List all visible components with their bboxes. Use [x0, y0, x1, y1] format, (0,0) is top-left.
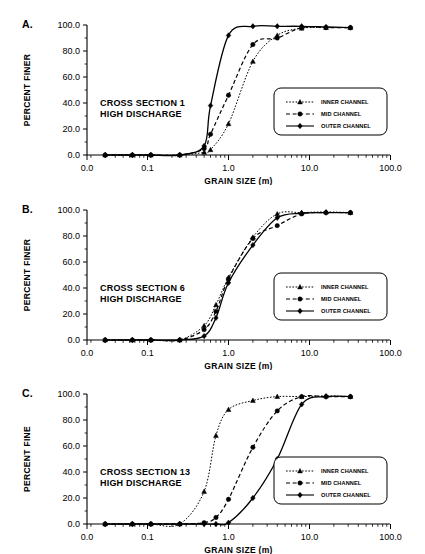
x-axis-title: GRAIN SIZE (m): [204, 176, 272, 185]
x-tick-label: 0.1: [141, 163, 154, 173]
chart-canvas: 0.020.040.060.080.0100.00.00.11.010.0100…: [0, 369, 425, 554]
legend-label: MID CHANNEL: [321, 296, 362, 302]
data-point-inner-channel: [214, 433, 219, 437]
data-point-mid-channel: [275, 409, 279, 413]
legend-circle-icon: [298, 112, 302, 116]
legend-label: OUTER CHANNEL: [321, 492, 371, 498]
x-tick-label: 100.0: [379, 348, 402, 358]
data-point-mid-channel: [275, 36, 279, 40]
chart-canvas: 0.020.040.060.080.0100.00.00.11.010.0100…: [0, 185, 425, 370]
y-tick-label: 0.0: [67, 150, 80, 160]
legend-label: INNER CHANNEL: [321, 99, 369, 105]
data-point-inner-channel: [214, 302, 219, 306]
y-tick-label: 100.0: [57, 20, 80, 30]
data-point-mid-channel: [251, 236, 255, 240]
x-tick-label: 10.0: [301, 532, 319, 542]
data-point-outer-channel: [251, 24, 256, 29]
x-tick-label: 10.0: [301, 348, 319, 358]
x-tick-label: 0.0: [81, 348, 94, 358]
data-point-mid-channel: [226, 497, 230, 501]
data-point-inner-channel: [250, 59, 255, 63]
x-tick-label: 0.1: [141, 348, 154, 358]
y-tick-label: 20.0: [62, 309, 80, 319]
data-point-mid-channel: [214, 309, 218, 313]
legend-circle-icon: [298, 297, 302, 301]
y-axis-title: PERCENT FINE: [22, 426, 32, 492]
panel-a: A. 0.020.040.060.080.0100.00.00.11.010.0…: [0, 0, 425, 185]
y-tick-label: 80.0: [62, 415, 80, 425]
y-tick-label: 100.0: [57, 205, 80, 215]
chart-title-annotation: CROSS SECTION 13: [100, 467, 190, 477]
data-point-outer-channel: [275, 24, 280, 29]
legend-label: OUTER CHANNEL: [321, 123, 371, 129]
data-point-outer-channel: [208, 103, 213, 108]
grain-size-distribution-figure: A. 0.020.040.060.080.0100.00.00.11.010.0…: [0, 0, 425, 554]
panel-c: C. 0.020.040.060.080.0100.00.00.11.010.0…: [0, 369, 425, 554]
legend-label: OUTER CHANNEL: [321, 308, 371, 314]
x-tick-label: 0.1: [141, 532, 154, 542]
legend-circle-icon: [298, 481, 302, 485]
legend-label: INNER CHANNEL: [321, 284, 369, 290]
y-tick-label: 40.0: [62, 467, 80, 477]
y-tick-label: 20.0: [62, 493, 80, 503]
chart-subtitle-annotation: HIGH DISCHARGE: [100, 478, 182, 488]
y-tick-label: 80.0: [62, 231, 80, 241]
x-tick-label: 1.0: [222, 348, 235, 358]
x-tick-label: 0.0: [81, 163, 94, 173]
y-tick-label: 60.0: [62, 72, 80, 82]
legend-label: MID CHANNEL: [321, 111, 362, 117]
y-tick-label: 0.0: [67, 519, 80, 529]
data-point-mid-channel: [214, 515, 218, 519]
chart-subtitle-annotation: HIGH DISCHARGE: [100, 109, 182, 119]
data-point-inner-channel: [226, 121, 231, 125]
data-point-mid-channel: [299, 394, 303, 398]
data-point-outer-channel: [324, 210, 329, 215]
x-axis-title: GRAIN SIZE (m): [204, 545, 272, 554]
data-point-mid-channel: [226, 93, 230, 97]
data-point-inner-channel: [202, 489, 207, 493]
x-tick-label: 10.0: [301, 163, 319, 173]
data-point-inner-channel: [275, 394, 280, 398]
x-tick-label: 1.0: [222, 532, 235, 542]
panel-b: B. 0.020.040.060.080.0100.00.00.11.010.0…: [0, 185, 425, 370]
y-tick-label: 40.0: [62, 98, 80, 108]
y-tick-label: 40.0: [62, 283, 80, 293]
data-point-mid-channel: [251, 445, 255, 449]
legend-label: INNER CHANNEL: [321, 468, 369, 474]
y-tick-label: 20.0: [62, 124, 80, 134]
chart-title-annotation: CROSS SECTION 6: [100, 283, 185, 293]
data-point-outer-channel: [324, 394, 329, 399]
y-tick-label: 0.0: [67, 335, 80, 345]
y-tick-label: 60.0: [62, 441, 80, 451]
x-tick-label: 100.0: [379, 163, 402, 173]
data-point-outer-channel: [214, 521, 219, 526]
y-tick-label: 100.0: [57, 389, 80, 399]
y-axis-title: PERCENT FINER: [22, 54, 32, 126]
data-point-mid-channel: [202, 327, 206, 331]
y-tick-label: 60.0: [62, 257, 80, 267]
data-point-mid-channel: [208, 132, 212, 136]
y-axis-title: PERCENT FINER: [22, 239, 32, 311]
chart-title-annotation: CROSS SECTION 1: [100, 98, 185, 108]
x-tick-label: 0.0: [81, 532, 94, 542]
x-tick-label: 100.0: [379, 532, 402, 542]
data-point-mid-channel: [251, 42, 255, 46]
data-point-mid-channel: [275, 223, 279, 227]
y-tick-label: 80.0: [62, 46, 80, 56]
x-tick-label: 1.0: [222, 163, 235, 173]
chart-subtitle-annotation: HIGH DISCHARGE: [100, 294, 182, 304]
data-point-outer-channel: [214, 315, 219, 320]
chart-canvas: 0.020.040.060.080.0100.00.00.11.010.0100…: [0, 0, 425, 185]
legend-label: MID CHANNEL: [321, 480, 362, 486]
